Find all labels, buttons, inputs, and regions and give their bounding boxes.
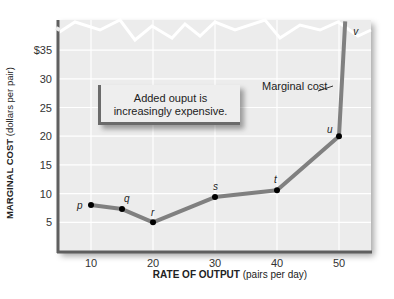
annotation-box: Added ouput is increasingly expensive. <box>98 85 240 125</box>
y-tick-label: 25 <box>40 102 52 114</box>
y-axis-title-main: MARGINAL COST <box>4 139 15 219</box>
x-tick-label: 30 <box>209 257 221 269</box>
y-tick-label: $35 <box>34 44 52 56</box>
x-tick-labels: 1020304050 <box>85 257 345 269</box>
y-tick-labels: 51015202530$35 <box>34 44 52 228</box>
y-axis-break <box>56 28 60 30</box>
x-axis-title: RATE OF OUTPUT (pairs per day) <box>130 269 330 280</box>
annotation-line-2: increasingly expensive. <box>101 105 240 118</box>
x-tick-label: 10 <box>85 257 97 269</box>
y-tick-label: 5 <box>46 216 52 228</box>
data-point-s <box>212 194 218 200</box>
y-tick-label: 15 <box>40 159 52 171</box>
data-point-q <box>119 206 125 212</box>
point-label-u: u <box>327 124 333 135</box>
point-label-q: q <box>124 193 130 204</box>
data-point-t <box>274 187 280 193</box>
curve-label: Marginal cost <box>262 80 327 92</box>
x-tick-label: 40 <box>271 257 283 269</box>
point-label-s: s <box>213 181 218 192</box>
annotation-line-1: Added ouput is <box>101 92 240 105</box>
y-axis-title-unit: (dollars per pair) <box>4 67 15 136</box>
y-tick-label: 10 <box>40 188 52 200</box>
x-tick-label: 20 <box>147 257 159 269</box>
data-point-p <box>88 202 94 208</box>
x-tick-label: 50 <box>333 257 345 269</box>
x-axis-title-main: RATE OF OUTPUT <box>153 269 240 280</box>
data-point-r <box>150 219 156 225</box>
x-axis-title-unit: (pairs per day) <box>243 269 307 280</box>
y-axis-title: MARGINAL COST (dollars per pair) <box>4 28 15 258</box>
y-tick-label: 20 <box>40 130 52 142</box>
point-label-p: p <box>76 200 83 211</box>
y-tick-label: 30 <box>40 73 52 85</box>
marginal-cost-chart: 51015202530$35 1020304050 pqrstuv <box>0 0 394 299</box>
data-point-u <box>336 133 342 139</box>
